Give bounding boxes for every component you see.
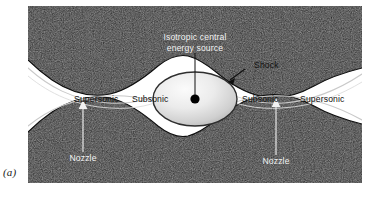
source-label-line1: Isotropic central: [163, 32, 226, 42]
subsonic-right-label: Subsonic: [242, 94, 279, 104]
diagram-frame: Isotropic central energy source Shock Su…: [28, 6, 362, 183]
supersonic-right-label: Supersonic: [300, 94, 345, 104]
subsonic-left-label: Subsonic: [132, 94, 169, 104]
nozzle-flow-diagram: Isotropic central energy source Shock Su…: [28, 6, 362, 183]
nozzle-right-label: Nozzle: [262, 156, 289, 166]
nozzle-left-label: Nozzle: [69, 153, 96, 163]
figure-root: Isotropic central energy source Shock Su…: [0, 0, 382, 198]
source-label-line2: energy source: [167, 43, 223, 53]
figure-caption-label: (a): [3, 166, 16, 178]
supersonic-left-label: Supersonic: [74, 94, 119, 104]
source-dot-icon: [190, 94, 199, 103]
shock-label: Shock: [254, 60, 279, 70]
